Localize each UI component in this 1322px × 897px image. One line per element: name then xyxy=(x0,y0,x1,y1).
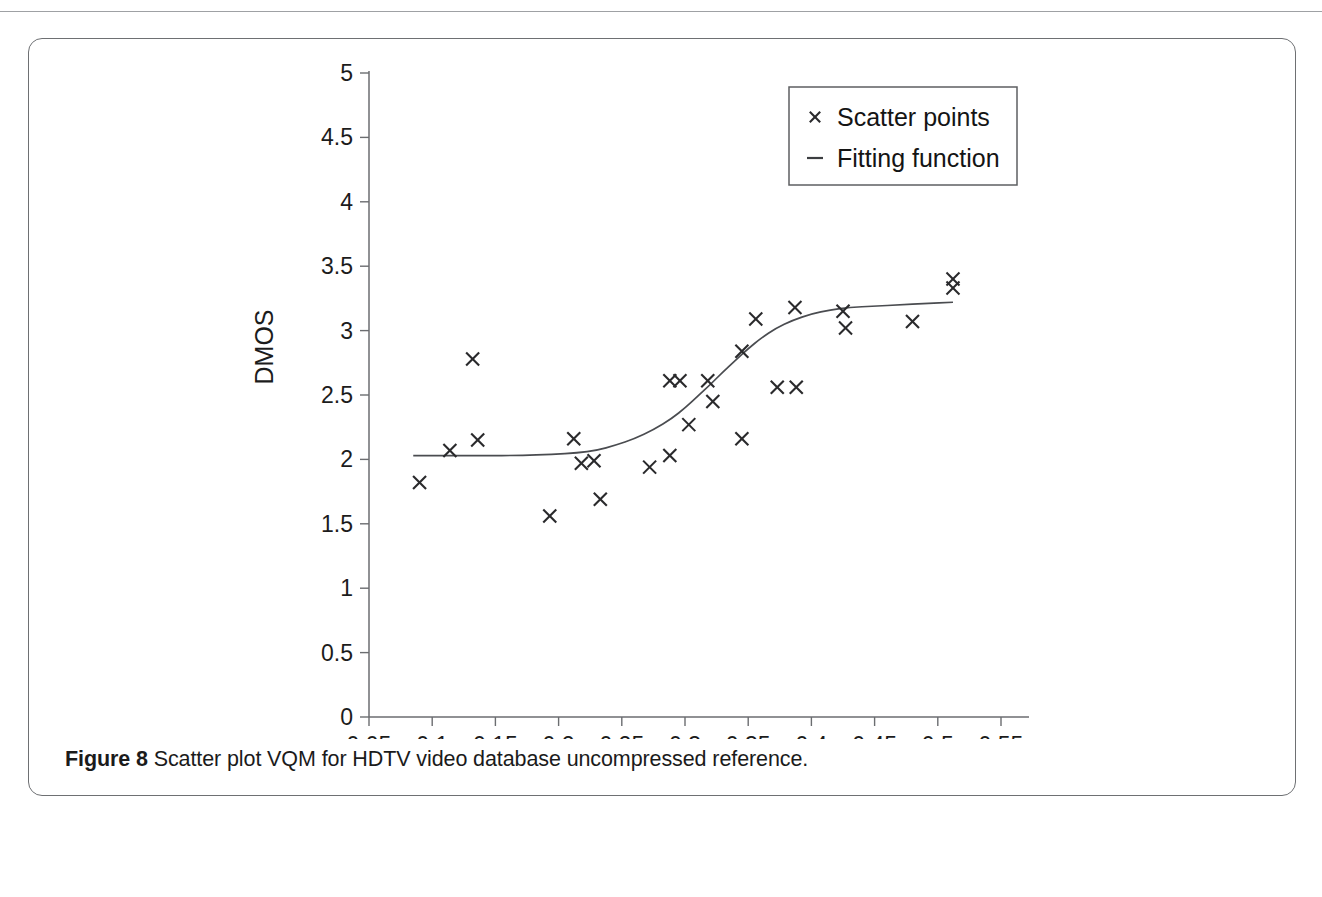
legend-label: Fitting function xyxy=(837,144,1000,172)
y-tick-label: 1 xyxy=(340,575,353,601)
x-tick-label: 0.5 xyxy=(922,732,954,739)
x-tick-label: 0.55 xyxy=(979,732,1024,739)
scatter-point xyxy=(839,322,852,335)
y-tick-label: 3.5 xyxy=(321,253,353,279)
scatter-point xyxy=(594,493,607,506)
y-tick-label: 0 xyxy=(340,704,353,730)
y-tick-label: 4 xyxy=(340,189,353,215)
x-tick-label: 0.1 xyxy=(416,732,448,739)
scatter-point xyxy=(906,315,919,328)
scatter-point xyxy=(790,381,803,394)
y-tick-label: 2 xyxy=(340,446,353,472)
x-axis-ticks: 0.050.10.150.20.250.30.350.40.450.50.55 xyxy=(347,717,1024,739)
x-tick-label: 0.3 xyxy=(669,732,701,739)
scatter-point xyxy=(837,305,850,318)
y-tick-label: 1.5 xyxy=(321,511,353,537)
y-axis-ticks: 00.511.522.533.544.55 xyxy=(321,60,369,730)
scatter-point xyxy=(413,476,426,489)
scatter-point xyxy=(575,457,588,470)
chart-legend: Scatter pointsFitting function xyxy=(789,87,1017,185)
scatter-point xyxy=(682,418,695,431)
legend-item: Scatter points xyxy=(810,103,990,131)
scatter-point xyxy=(543,510,556,523)
y-axis-title: DMOS xyxy=(250,310,278,385)
scatter-point xyxy=(701,374,714,387)
y-tick-label: 2.5 xyxy=(321,382,353,408)
scatter-point xyxy=(471,434,484,447)
x-tick-label: 0.25 xyxy=(599,732,644,739)
legend-label: Scatter points xyxy=(837,103,990,131)
scatter-point xyxy=(946,282,959,295)
x-tick-label: 0.4 xyxy=(795,732,827,739)
chart-plot-area: 0.050.10.150.20.250.30.350.40.450.50.55 … xyxy=(29,39,1297,739)
scatter-point xyxy=(788,301,801,314)
scatter-point xyxy=(749,313,762,326)
scatter-plot-svg: 0.050.10.150.20.250.30.350.40.450.50.55 … xyxy=(29,39,1297,739)
x-tick-label: 0.15 xyxy=(473,732,518,739)
figure-caption-label: Figure 8 xyxy=(65,747,148,771)
scatter-point xyxy=(735,432,748,445)
scatter-point xyxy=(567,432,580,445)
figure-caption: Figure 8 Scatter plot VQM for HDTV video… xyxy=(65,747,1265,772)
x-tick-label: 0.05 xyxy=(347,732,392,739)
figure-container: 0.050.10.150.20.250.30.350.40.450.50.55 … xyxy=(28,38,1296,796)
x-tick-label: 0.45 xyxy=(852,732,897,739)
y-tick-label: 0.5 xyxy=(321,640,353,666)
y-tick-label: 3 xyxy=(340,318,353,344)
y-tick-label: 4.5 xyxy=(321,124,353,150)
scatter-point xyxy=(587,454,600,467)
scatter-points-group xyxy=(413,273,959,523)
page-top-rule xyxy=(0,11,1322,12)
y-tick-label: 5 xyxy=(340,60,353,86)
x-tick-label: 0.2 xyxy=(543,732,575,739)
scatter-point xyxy=(466,352,479,365)
x-tick-label: 0.35 xyxy=(726,732,771,739)
scatter-point xyxy=(771,381,784,394)
figure-caption-text: Scatter plot VQM for HDTV video database… xyxy=(148,747,808,771)
scatter-point xyxy=(663,449,676,462)
scatter-point xyxy=(673,374,686,387)
scatter-point xyxy=(643,461,656,474)
scatter-point xyxy=(706,395,719,408)
